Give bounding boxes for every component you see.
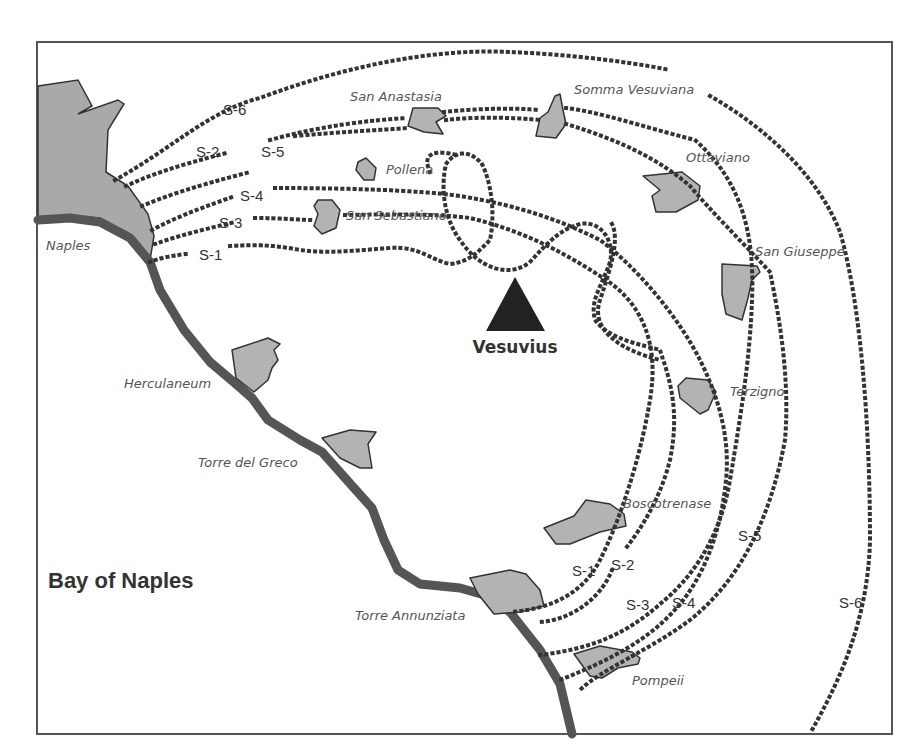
route-label-s4-south: S-4 [672,594,695,611]
town-label-terzigno: Terzigno [730,384,785,399]
route-label-s5-north: S-5 [261,143,284,160]
town-label-herculaneum: Herculaneum [124,376,211,391]
town-label-boscotrenase: Boscotrenase [623,496,711,511]
route-label-s5-south: S-5 [738,527,761,544]
town-label-san-sebastiano: San Sebastiano [346,208,447,223]
town-label-torre-annunziata: Torre Annunziata [355,608,465,623]
route-label-s6-north: S-6 [223,101,246,118]
vesuvius-label: Vesuvius [472,337,557,357]
town-label-torre-del-greco: Torre del Greco [198,455,298,470]
route-label-s1-north: S-1 [199,246,222,263]
town-label-pompeii: Pompeii [632,673,684,688]
town-label-naples: Naples [46,238,91,253]
route-label-s2-north: S-2 [196,143,219,160]
route-label-s2-south: S-2 [611,556,634,573]
eruption-route-map: Vesuvius Naples San Anastasia Somma Vesu… [0,0,921,753]
route-label-s3-south: S-3 [626,596,649,613]
town-label-san-giuseppe: San Giuseppe [755,244,845,259]
bay-of-naples-label: Bay of Naples [48,568,194,593]
route-label-s3-north: S-3 [219,214,242,231]
route-label-s6-south: S-6 [839,594,862,611]
route-label-s4-north: S-4 [240,187,263,204]
town-label-somma-vesuviana: Somma Vesuviana [574,82,694,97]
route-label-s1-south: S-1 [572,562,595,579]
town-label-ottaviano: Ottaviano [686,150,750,165]
town-label-pollena: Pollena [386,162,433,177]
town-label-san-anastasia: San Anastasia [350,89,442,104]
